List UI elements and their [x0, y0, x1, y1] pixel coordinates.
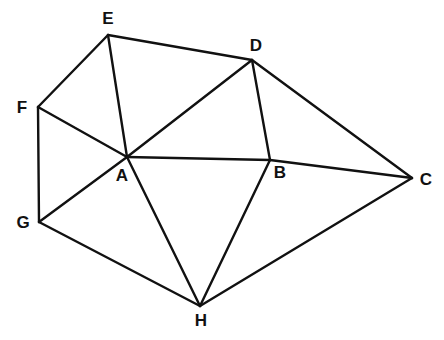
vertex-label-g: G: [16, 213, 29, 232]
edge-e-a: [108, 35, 127, 157]
vertex-label-h: H: [195, 311, 207, 330]
edge-e-d: [108, 35, 252, 60]
vertex-label-a: A: [116, 166, 128, 185]
vertex-label-c: C: [420, 170, 432, 189]
edge-g-a: [39, 157, 127, 222]
edge-f-a: [38, 107, 127, 157]
vertex-labels-group: EDFABCGH: [16, 9, 432, 330]
vertex-label-e: E: [102, 9, 113, 28]
edge-a-d: [127, 60, 252, 157]
edge-e-f: [38, 35, 108, 107]
edge-d-b: [252, 60, 270, 160]
edge-f-g: [38, 107, 39, 222]
edge-g-h: [39, 222, 200, 306]
edges-group: [38, 35, 412, 306]
graph-diagram: EDFABCGH: [0, 0, 444, 340]
vertex-label-b: B: [274, 163, 286, 182]
edge-a-h: [127, 157, 200, 306]
vertex-label-d: D: [250, 36, 262, 55]
edge-a-b: [127, 157, 270, 160]
vertex-label-f: F: [17, 98, 27, 117]
